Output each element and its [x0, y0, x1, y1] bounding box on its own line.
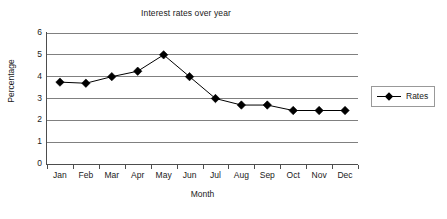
data-point-marker	[237, 101, 245, 109]
x-axis-tick-mark	[99, 165, 100, 169]
y-axis-tick-labels: 0123456	[26, 33, 42, 164]
legend-entry-label: Rates	[406, 92, 428, 101]
x-axis-tick-label: Dec	[332, 170, 358, 180]
y-axis-title: Percentage	[6, 51, 16, 111]
x-axis-tick-labels: JanFebMarAprMayJunJulAugSepOctNovDec	[47, 170, 358, 183]
data-point-marker	[134, 67, 142, 75]
x-axis-tick-mark	[228, 165, 229, 169]
x-axis-tick-label: Jun	[177, 170, 203, 180]
y-axis-tick-label: 4	[28, 72, 42, 81]
series-rates	[47, 33, 358, 164]
y-axis-tick-label: 1	[28, 137, 42, 146]
data-point-marker	[108, 72, 116, 80]
chart-title: Interest rates over year	[0, 8, 372, 18]
x-axis-tick-mark	[125, 165, 126, 169]
data-point-marker	[56, 78, 64, 86]
data-point-marker	[289, 106, 297, 114]
y-axis-tick-label: 0	[28, 159, 42, 168]
x-axis-tick-label: Nov	[306, 170, 332, 180]
y-axis-tick-label: 5	[28, 50, 42, 59]
x-axis-tick-label: Apr	[125, 170, 151, 180]
x-axis-tick-label: Aug	[228, 170, 254, 180]
x-axis-tick-mark	[151, 165, 152, 169]
x-axis-tick-mark	[47, 165, 48, 169]
x-axis-tick-label: Jan	[47, 170, 73, 180]
x-axis-tick-mark	[280, 165, 281, 169]
line-chart: Interest rates over year Percentage 0123…	[0, 0, 447, 219]
x-axis-tick-label: Mar	[99, 170, 125, 180]
x-axis-tick-mark	[254, 165, 255, 169]
x-axis-tick-label: Sep	[254, 170, 280, 180]
x-axis-tick-mark	[203, 165, 204, 169]
y-axis-tick-label: 3	[28, 94, 42, 103]
x-axis-tick-mark	[332, 165, 333, 169]
y-axis-tick-label: 6	[28, 28, 42, 37]
data-point-marker	[341, 106, 349, 114]
x-axis-title: Month	[47, 189, 358, 199]
legend-marker-icon	[376, 91, 402, 102]
data-point-marker	[82, 79, 90, 87]
data-point-marker	[315, 106, 323, 114]
series-line	[60, 55, 345, 111]
y-axis-tick-label: 2	[28, 115, 42, 124]
x-axis-tick-mark	[73, 165, 74, 169]
x-axis-tick-label: Jul	[203, 170, 229, 180]
data-point-marker	[263, 101, 271, 109]
x-axis-tick-label: May	[151, 170, 177, 180]
x-axis-tick-mark	[358, 165, 359, 169]
plot-area	[47, 33, 358, 164]
x-axis-tick-mark	[306, 165, 307, 169]
chart-legend: Rates	[371, 86, 435, 107]
x-axis-tick-label: Oct	[280, 170, 306, 180]
x-axis-tick-mark	[177, 165, 178, 169]
x-axis-tick-label: Feb	[73, 170, 99, 180]
